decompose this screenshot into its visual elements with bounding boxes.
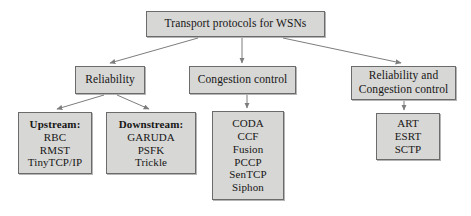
list-item: ART xyxy=(397,117,419,130)
node-reliability[interactable]: Reliability xyxy=(75,66,145,94)
list-item: Trickle xyxy=(135,156,167,169)
diagram-canvas: Transport protocols for WSNs Reliability… xyxy=(0,0,471,216)
edge-reliability-to-downstream xyxy=(117,95,149,109)
list-item: GARUDA xyxy=(127,131,175,144)
list-item: PCCP xyxy=(234,156,261,169)
node-transport-protocols-for-wsns[interactable]: Transport protocols for WSNs xyxy=(146,11,325,37)
node-reliability-congestion-protocols[interactable]: ART ESRT SCTP xyxy=(376,113,440,160)
list-item: SenTCP xyxy=(229,168,266,181)
list-item: SCTP xyxy=(395,143,422,156)
list-item: ESRT xyxy=(395,130,422,143)
node-upstream-protocols[interactable]: Upstream: RBC RMST TinyTCP/IP xyxy=(18,112,92,174)
list-item: RMST xyxy=(40,144,70,157)
node-label: Congestion control xyxy=(198,73,288,87)
node-heading: Upstream: xyxy=(30,118,81,131)
edge-reliability-to-upstream xyxy=(57,95,104,109)
edge-root-to-reliability-congestion xyxy=(283,38,401,63)
node-label-line-1: Reliability and xyxy=(369,69,439,83)
node-reliability-and-congestion-control[interactable]: Reliability and Congestion control xyxy=(351,66,456,100)
edge-root-to-reliability xyxy=(110,38,198,63)
list-item: PSFK xyxy=(138,144,165,157)
list-item: RBC xyxy=(44,131,66,144)
list-item: CODA xyxy=(232,117,264,130)
list-item: CCF xyxy=(237,130,258,143)
node-congestion-control[interactable]: Congestion control xyxy=(189,66,296,94)
list-item: Siphon xyxy=(232,181,264,194)
node-label: Transport protocols for WSNs xyxy=(165,17,307,31)
node-heading: Downstream: xyxy=(119,118,183,131)
list-item: TinyTCP/IP xyxy=(28,156,82,169)
list-item: Fusion xyxy=(233,143,264,156)
node-label: Reliability xyxy=(85,73,135,87)
node-congestion-control-protocols[interactable]: CODA CCF Fusion PCCP SenTCP Siphon xyxy=(212,111,284,200)
node-label-line-2: Congestion control xyxy=(359,83,449,97)
node-downstream-protocols[interactable]: Downstream: GARUDA PSFK Trickle xyxy=(106,112,196,174)
